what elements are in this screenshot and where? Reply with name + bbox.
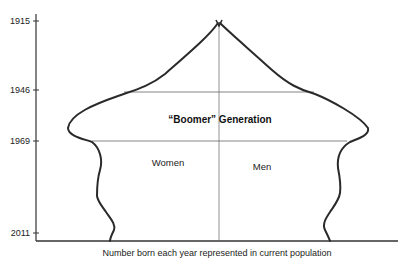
- tick-label-1915: 1915: [10, 16, 30, 26]
- boomer-generation-label: “Boomer” Generation: [168, 114, 271, 125]
- population-pyramid-diagram: 1915 1946 1969 2011 “Boomer” Generation …: [0, 0, 409, 260]
- men-population-outline: [220, 23, 368, 241]
- women-population-outline: [68, 23, 218, 241]
- women-label: Women: [152, 157, 185, 168]
- tick-label-1946: 1946: [10, 85, 30, 95]
- tick-label-1969: 1969: [10, 136, 30, 146]
- men-label: Men: [253, 161, 271, 172]
- tick-label-2011: 2011: [11, 228, 30, 238]
- x-axis-caption: Number born each year represented in cur…: [102, 248, 331, 258]
